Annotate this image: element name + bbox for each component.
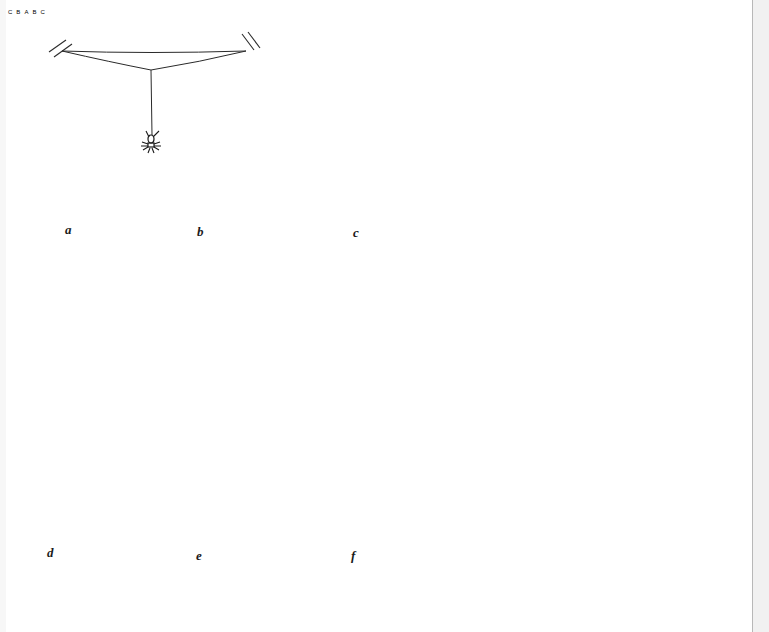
panel-label-b: b [197,224,204,240]
sagging-thread [62,51,246,70]
drop-line [151,70,152,135]
anchor-icon [49,40,72,57]
panel-label-f: f [351,548,355,564]
panel-label-e: e [196,548,202,564]
panel-a-diagram [49,32,260,153]
bridge-thread [62,51,246,53]
panel-label-c: c [353,225,359,241]
anchor-icon [242,32,260,50]
panel-label-d: d [47,545,54,561]
spider-icon [141,131,161,153]
panel-label-a: a [65,222,72,238]
